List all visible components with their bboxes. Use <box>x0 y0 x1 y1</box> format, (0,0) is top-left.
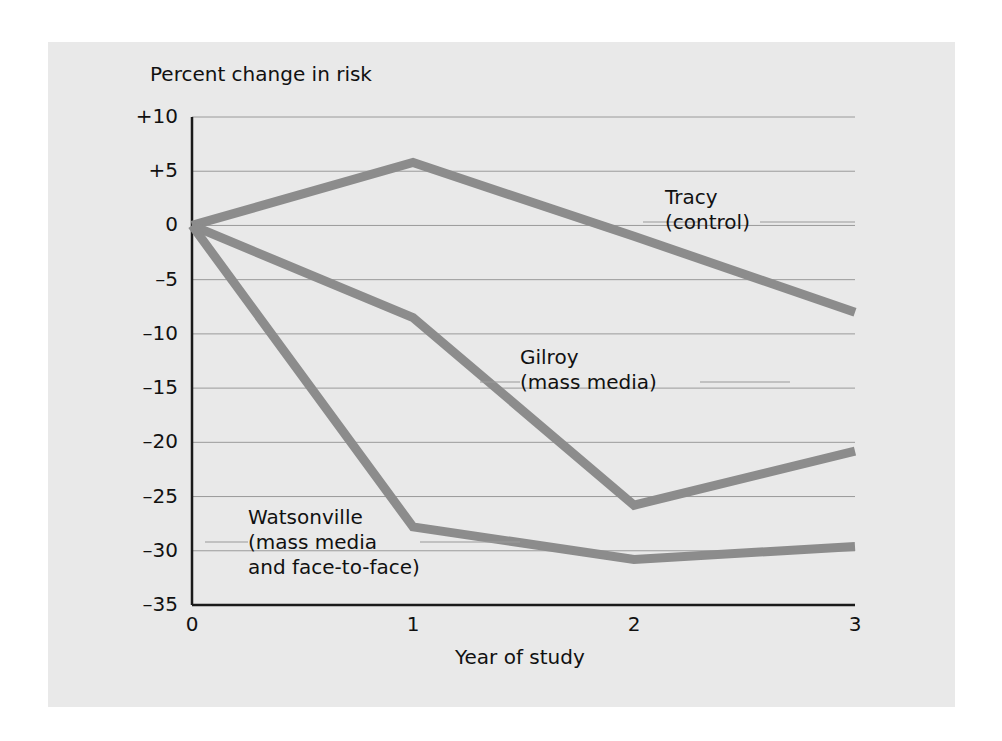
y-tick-label: +10 <box>116 104 178 128</box>
y-tick-label: +5 <box>116 158 178 182</box>
series-label-line: (mass media <box>248 530 420 555</box>
series-label-line: Tracy <box>665 185 750 210</box>
series-label-watsonville: Watsonville(mass mediaand face-to-face) <box>248 505 420 580</box>
gridlines-group <box>192 117 855 551</box>
series-label-tracy: Tracy(control) <box>665 185 750 235</box>
x-axis-title: Year of study <box>455 645 585 669</box>
series-label-gilroy: Gilroy(mass media) <box>520 345 657 395</box>
y-tick-label: –5 <box>116 267 178 291</box>
series-line-0 <box>192 163 855 313</box>
series-label-line: (mass media) <box>520 370 657 395</box>
x-tick-label: 3 <box>835 612 875 636</box>
series-label-line: (control) <box>665 210 750 235</box>
series-label-line: Gilroy <box>520 345 657 370</box>
figure-canvas: Percent change in risk Year of study +10… <box>0 0 1002 741</box>
x-tick-label: 0 <box>172 612 212 636</box>
y-tick-label: –25 <box>116 484 178 508</box>
x-tick-label: 1 <box>393 612 433 636</box>
y-axis-title: Percent change in risk <box>150 62 372 86</box>
y-tick-label: –20 <box>116 429 178 453</box>
series-label-line: Watsonville <box>248 505 420 530</box>
series-label-line: and face-to-face) <box>248 555 420 580</box>
y-tick-label: –10 <box>116 321 178 345</box>
y-tick-label: –35 <box>116 592 178 616</box>
y-tick-label: –30 <box>116 538 178 562</box>
x-tick-label: 2 <box>614 612 654 636</box>
y-tick-label: 0 <box>116 212 178 236</box>
y-tick-label: –15 <box>116 375 178 399</box>
